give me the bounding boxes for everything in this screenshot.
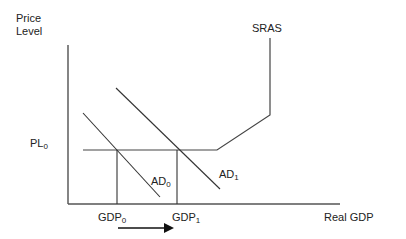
gdp0-sub: 0: [122, 216, 126, 225]
gdp0-main: GDP: [98, 211, 122, 223]
y-axis-label-line1: Price: [16, 12, 42, 25]
ad1-label: AD1: [219, 168, 239, 184]
sras-label: SRAS: [252, 22, 282, 35]
ad-as-diagram: [0, 0, 406, 239]
gdp1-main: GDP: [172, 211, 196, 223]
y-axis-label-line2: Level: [16, 25, 42, 38]
sras-curve: [83, 38, 270, 150]
ad0-main: AD: [151, 175, 166, 187]
gdp0-label: GDP0: [98, 211, 126, 227]
ad0-label: AD0: [151, 175, 171, 191]
gdp1-label: GDP1: [172, 211, 200, 227]
ad0-curve: [83, 113, 160, 197]
y-axis-label: Price Level: [16, 12, 42, 38]
ad0-sub: 0: [166, 180, 170, 189]
pl0-sub: 0: [43, 142, 47, 151]
ad1-curve: [116, 88, 220, 189]
pl0-label: PL0: [30, 137, 48, 153]
pl0-main: PL: [30, 137, 43, 149]
gdp1-sub: 1: [196, 216, 200, 225]
ad1-main: AD: [219, 168, 234, 180]
ad1-sub: 1: [234, 173, 238, 182]
x-axis-label: Real GDP: [324, 211, 374, 224]
